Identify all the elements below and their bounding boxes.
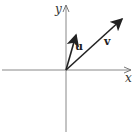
- vector-diagram: y x u v: [0, 0, 134, 140]
- x-axis-label: x: [125, 71, 132, 85]
- vector-v-label: v: [103, 35, 111, 48]
- vector-u-label: u: [75, 40, 83, 53]
- y-axis-label: y: [54, 2, 62, 16]
